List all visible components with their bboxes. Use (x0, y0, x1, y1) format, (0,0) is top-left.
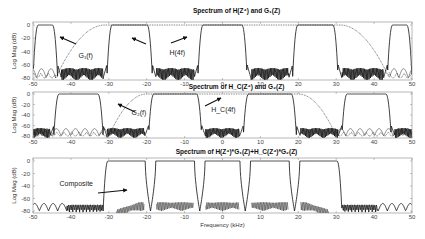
y-tick-label: -20 (21, 35, 30, 41)
inband-ripple (157, 202, 194, 211)
annotation-gf: G₂(f) (132, 109, 147, 117)
x-tick-label: 0 (221, 214, 225, 220)
x-tick-label: -10 (180, 214, 189, 220)
x-tick-label: 40 (371, 81, 378, 87)
annotation-composite: Composite (60, 180, 94, 188)
x-tick-label: 10 (257, 214, 264, 220)
panel-h-g1: -50-40-30-20-10010203040500-20-40-60-80L… (11, 7, 416, 87)
panel-title: Spectrum of H(Z⁴)*G₁(Z)+H_C(Z⁴)*G₂(Z) (176, 148, 298, 156)
y-tick-label: -60 (21, 196, 30, 202)
arrow-icon (60, 37, 76, 44)
arrow-icon (205, 98, 221, 106)
arrow-icon (118, 104, 135, 112)
inband-ripple (116, 202, 144, 213)
panel-title: Spectrum of H_C(Z⁴) and G₂(Z) (189, 83, 285, 91)
x-axis-label: Frequency (kHz) (200, 222, 244, 228)
x-tick-label: -40 (67, 214, 76, 220)
y-tick-label: -40 (21, 49, 30, 55)
x-tick-label: 30 (333, 214, 340, 220)
x-tick-label: -20 (142, 214, 151, 220)
y-axis-label: Log Mag (dB) (11, 97, 17, 133)
x-tick-label: -20 (142, 139, 151, 145)
x-tick-label: -30 (104, 139, 113, 145)
annotation-h4f: H(4f) (169, 49, 185, 57)
arrow-icon (171, 37, 187, 43)
x-tick-label: 50 (409, 139, 416, 145)
x-tick-label: 20 (295, 81, 302, 87)
x-tick-label: -50 (29, 214, 38, 220)
arrow-icon (132, 38, 146, 44)
x-tick-label: 30 (333, 139, 340, 145)
x-tick-label: -20 (142, 81, 151, 87)
y-tick-label: 0 (27, 22, 31, 28)
arrow-icon (98, 190, 127, 193)
series-H_C(4f) (33, 94, 412, 138)
x-tick-label: 40 (371, 214, 378, 220)
y-tick-label: -80 (21, 75, 30, 81)
inband-ripple (301, 202, 329, 213)
x-tick-label: 40 (371, 139, 378, 145)
inband-ripple (206, 202, 239, 211)
panel-title: Spectrum of H(Z⁴) and G₁(Z) (193, 7, 280, 15)
y-tick-label: -20 (21, 171, 30, 177)
y-tick-label: -40 (21, 183, 30, 189)
x-tick-label: 0 (221, 139, 225, 145)
y-axis-label: Log Mag (dB) (11, 33, 17, 69)
x-tick-label: 20 (295, 214, 302, 220)
annotation-gf: G₁(f) (78, 52, 92, 60)
x-tick-label: -10 (180, 139, 189, 145)
x-tick-label: 50 (409, 214, 416, 220)
stopband-lobes (33, 69, 56, 78)
x-tick-label: -50 (29, 81, 38, 87)
x-tick-label: 50 (409, 81, 416, 87)
y-axis-label: Log Mag (dB) (11, 167, 17, 203)
x-tick-label: -30 (104, 214, 113, 220)
panel-composite: -50-40-30-20-10010203040500-20-40-60-80L… (11, 148, 416, 220)
y-tick-label: -60 (21, 62, 30, 68)
y-tick-label: -40 (21, 112, 30, 118)
x-tick-label: -40 (67, 139, 76, 145)
figure: -50-40-30-20-10010203040500-20-40-60-80L… (0, 0, 425, 239)
x-tick-label: -40 (67, 81, 76, 87)
stopband-lobes (389, 69, 411, 78)
y-tick-label: -60 (21, 123, 30, 129)
y-tick-label: 0 (27, 91, 31, 97)
annotation-hc4f: H_C(4f) (211, 106, 236, 114)
y-tick-label: -80 (21, 133, 30, 139)
x-tick-label: -50 (29, 139, 38, 145)
x-tick-label: -30 (104, 81, 113, 87)
inband-ripple (251, 202, 288, 211)
y-tick-label: -20 (21, 102, 30, 108)
plot-area (33, 161, 412, 213)
y-tick-label: 0 (27, 158, 31, 164)
x-tick-label: 30 (333, 81, 340, 87)
x-tick-label: 10 (257, 139, 264, 145)
x-tick-label: 20 (295, 139, 302, 145)
y-tick-label: -80 (21, 208, 30, 214)
panel-hc-g2: -50-40-30-20-10010203040500-20-40-60-80L… (11, 83, 416, 145)
plot-area (33, 94, 412, 138)
